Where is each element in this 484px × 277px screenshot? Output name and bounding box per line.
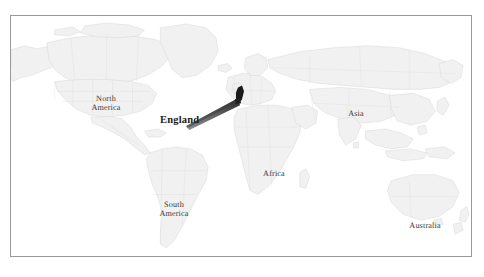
- land-sri-lanka: [354, 142, 359, 148]
- world-map-figure: North America South America Asia Africa …: [0, 0, 484, 277]
- land-philippines: [417, 125, 427, 135]
- world-map-graphic: [11, 16, 471, 256]
- map-frame: North America South America Asia Africa …: [10, 15, 472, 257]
